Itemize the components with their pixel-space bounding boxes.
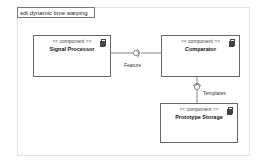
component-icon xyxy=(101,39,106,46)
component-name: Comparator xyxy=(162,45,239,53)
stereotype-label: << component >> xyxy=(161,106,237,113)
component-signal-processor[interactable]: << component >> Signal Processor xyxy=(33,35,111,77)
component-icon xyxy=(228,107,233,114)
stereotype-label: << component >> xyxy=(162,38,239,45)
component-name: Signal Processor xyxy=(34,45,110,53)
interface-label-templates: Templates xyxy=(203,90,226,97)
component-icon xyxy=(230,39,235,46)
interface-label-feature: Feature xyxy=(124,62,141,69)
component-prototype-storage[interactable]: << component >> Prototype Storage xyxy=(160,103,238,143)
component-name: Prototype Storage xyxy=(161,113,237,121)
stereotype-label: << component >> xyxy=(34,38,110,45)
component-comparator[interactable]: << component >> Comparator xyxy=(161,35,240,77)
